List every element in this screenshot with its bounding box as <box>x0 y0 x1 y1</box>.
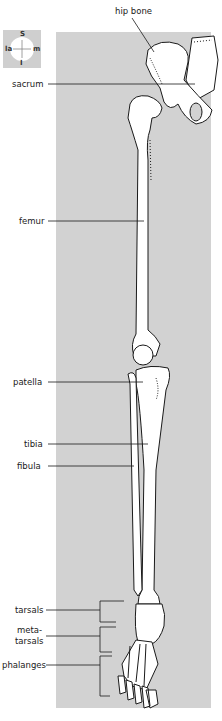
label-phalanges: phalanges <box>2 660 46 670</box>
label-fibula: fibula <box>17 461 41 471</box>
label-femur: femur <box>19 216 44 226</box>
leader-lines <box>46 18 195 696</box>
label-hip-bone: hip bone <box>115 6 152 16</box>
label-sacrum: sacrum <box>12 79 43 89</box>
label-tarsals: tarsals <box>15 605 43 615</box>
label-metatarsals-line2: tarsals <box>15 636 43 646</box>
label-patella: patella <box>13 377 42 387</box>
tarsals-shape <box>135 604 164 644</box>
label-tibia: tibia <box>24 439 43 449</box>
femur-shape <box>128 96 162 356</box>
patella-shape <box>133 345 153 365</box>
label-metatarsals-line1: meta- <box>17 625 42 635</box>
